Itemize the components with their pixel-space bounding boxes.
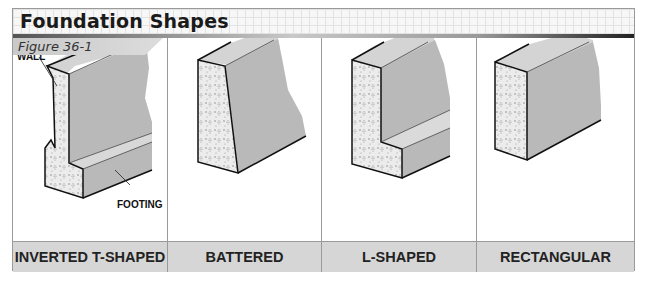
inverted-t-foundation-illustration bbox=[13, 38, 167, 241]
panel-rectangular bbox=[476, 38, 636, 241]
rectangular-foundation-illustration bbox=[477, 38, 637, 241]
battered-foundation-illustration bbox=[168, 38, 322, 241]
caption-inverted-t: INVERTED T-SHAPED bbox=[13, 242, 167, 272]
figure-frame: Foundation Shapes bbox=[12, 8, 635, 271]
panel-l-shaped bbox=[321, 38, 476, 241]
caption-battered: BATTERED bbox=[167, 242, 321, 272]
panel-inverted-t: WALL FOOTING bbox=[13, 38, 167, 241]
panel-row: WALL FOOTING bbox=[13, 38, 634, 241]
caption-rectangular: RECTANGULAR bbox=[476, 242, 634, 272]
figure-number: Figure 36-1 bbox=[18, 39, 93, 54]
panel-battered bbox=[167, 38, 321, 241]
caption-l-shaped: L-SHAPED bbox=[321, 242, 476, 272]
footing-callout: FOOTING bbox=[117, 199, 163, 210]
title-bar: Foundation Shapes bbox=[13, 9, 634, 34]
figure-title: Foundation Shapes bbox=[20, 10, 229, 32]
l-shaped-foundation-illustration bbox=[322, 38, 477, 241]
caption-row: INVERTED T-SHAPED BATTERED L-SHAPED RECT… bbox=[13, 241, 634, 272]
